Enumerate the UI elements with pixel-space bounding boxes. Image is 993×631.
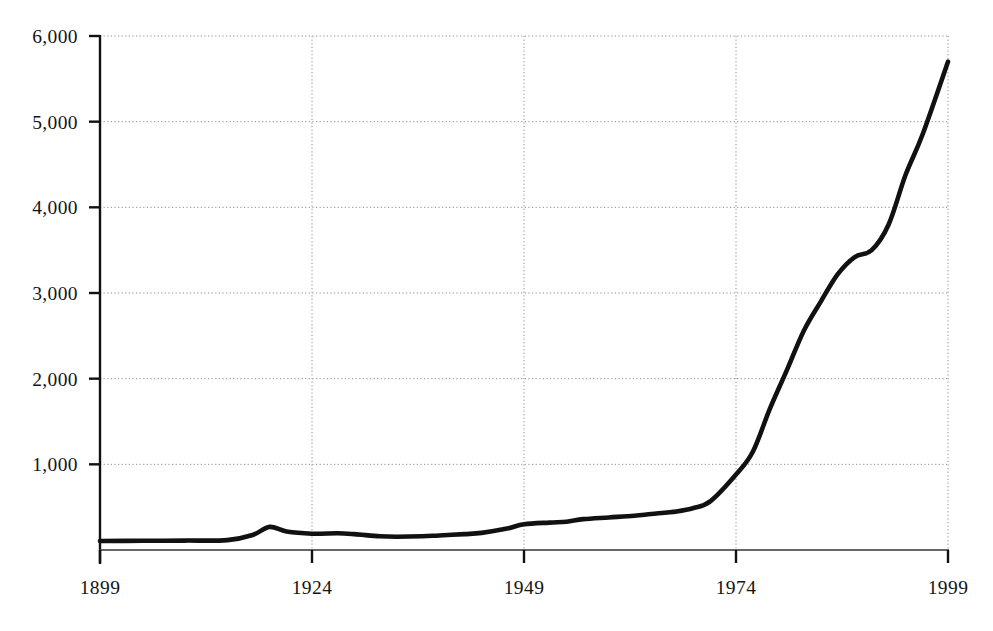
y-tick-label: 2,000 [32,369,78,390]
x-tick-group: 18991924194919741999 [80,550,969,598]
x-tick-label: 1924 [292,577,333,598]
y-tick-label: 1,000 [32,454,78,475]
x-tick-label: 1974 [716,577,757,598]
y-tick-label: 6,000 [32,26,78,47]
line-chart-canvas: 6,0005,0004,0003,0002,0001,0001899192419… [0,0,993,631]
y-tick-label: 5,000 [32,112,78,133]
gridlines-group [100,36,948,550]
chart-figure: 6,0005,0004,0003,0002,0001,0001899192419… [0,0,993,631]
y-tick-label: 3,000 [32,283,78,304]
caption-strip [0,619,993,631]
y-tick-label: 4,000 [32,197,78,218]
x-tick-label: 1949 [504,577,545,598]
x-tick-label: 1899 [80,577,121,598]
y-tick-group: 6,0005,0004,0003,0002,0001,000 [32,26,100,475]
x-tick-label: 1999 [928,577,969,598]
